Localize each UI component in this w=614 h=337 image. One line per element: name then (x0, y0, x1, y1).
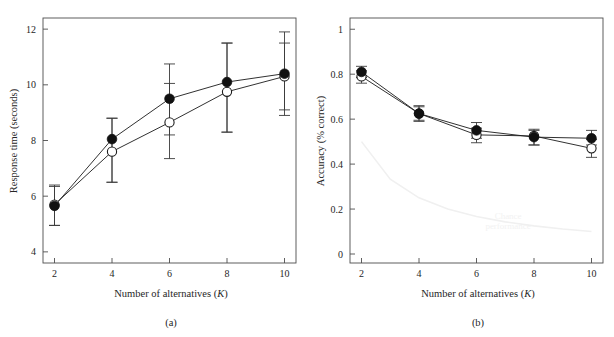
y-tick-label: 12 (26, 24, 36, 35)
y-tick-label: 6 (31, 191, 36, 202)
data-point-filled-circles (107, 134, 117, 144)
y-tick-label: 0 (338, 249, 343, 260)
y-tick-label: 0.4 (331, 159, 344, 170)
x-tick-label: 6 (474, 268, 479, 279)
x-axis-title: Number of alternatives (K) (114, 288, 228, 300)
y-axis-title: Response time (seconds) (8, 88, 20, 193)
panel-caption: (a) (165, 317, 177, 329)
data-point-filled-circles (357, 67, 367, 77)
panel-a: 4681012246810 Number of alternatives (K)… (0, 0, 307, 337)
chance-performance-label: Chanceperformance (485, 211, 530, 231)
x-tick-label: 2 (52, 268, 57, 279)
panel-a-plot: 4681012246810 Number of alternatives (K)… (0, 0, 307, 337)
panel-b: 00.20.40.60.81246810Chanceperformance Nu… (307, 0, 614, 337)
y-tick-label: 4 (31, 246, 36, 257)
panel-b-plot: 00.20.40.60.81246810Chanceperformance Nu… (307, 0, 614, 337)
x-axis-title: Number of alternatives (K) (421, 288, 535, 300)
data-point-filled-circles (280, 69, 290, 79)
data-point-filled-circles (165, 94, 175, 104)
panel-caption: (b) (472, 317, 485, 329)
data-point-filled-circles (472, 126, 482, 136)
data-point-open-circles (107, 147, 116, 156)
y-axis-title: Accuracy (% correct) (315, 95, 327, 186)
data-point-filled-circles (222, 77, 232, 87)
data-point-filled-circles (587, 133, 597, 143)
y-tick-label: 0.6 (331, 114, 344, 125)
x-tick-label: 10 (587, 268, 597, 279)
y-tick-label: 0.2 (331, 204, 344, 215)
data-point-filled-circles (414, 109, 424, 119)
data-point-filled-circles (50, 201, 60, 211)
x-tick-label: 8 (225, 268, 230, 279)
data-point-open-circles (587, 144, 596, 153)
data-point-open-circles (165, 118, 174, 127)
x-tick-label: 4 (417, 268, 422, 279)
x-tick-label: 10 (280, 268, 290, 279)
chance-performance-curve (362, 142, 592, 232)
x-tick-label: 8 (532, 268, 537, 279)
x-tick-label: 2 (359, 268, 364, 279)
y-tick-label: 1 (338, 24, 343, 35)
data-point-open-circles (222, 87, 231, 96)
y-tick-label: 0.8 (331, 69, 344, 80)
x-tick-label: 6 (167, 268, 172, 279)
y-tick-label: 10 (26, 79, 36, 90)
figure-two-panel: 4681012246810 Number of alternatives (K)… (0, 0, 614, 337)
data-point-filled-circles (529, 132, 539, 142)
x-tick-label: 4 (110, 268, 115, 279)
y-tick-label: 8 (31, 135, 36, 146)
